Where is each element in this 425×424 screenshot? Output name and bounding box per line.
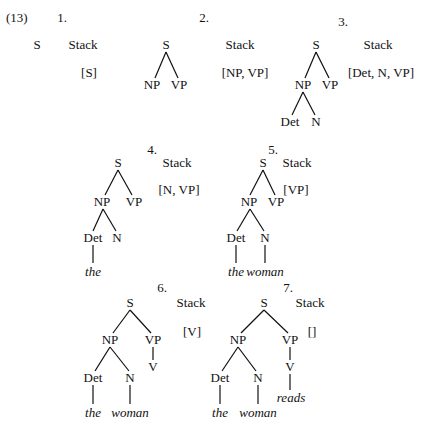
word-reads: reads: [277, 391, 305, 405]
node-S: S: [126, 296, 133, 310]
node-Det: Det: [211, 371, 230, 385]
node-NP: NP: [295, 78, 312, 92]
node-VP: VP: [171, 78, 188, 92]
stack-label: Stack: [163, 156, 192, 170]
node-VP: VP: [282, 333, 299, 347]
step-number: 3.: [338, 15, 348, 29]
word-the: the: [85, 406, 101, 420]
node-NP: NP: [144, 78, 161, 92]
node-S: S: [33, 38, 40, 52]
example-number: (13): [6, 11, 28, 25]
stack-label: Stack: [364, 38, 393, 52]
node-Det: Det: [227, 231, 246, 245]
node-NP: NP: [94, 195, 111, 209]
node-VP: VP: [126, 195, 143, 209]
stack-label: Stack: [283, 156, 312, 170]
stack-contents: [Det, N, VP]: [348, 66, 414, 80]
node-Det: Det: [281, 115, 300, 129]
word-woman: woman: [246, 265, 284, 279]
node-S: S: [312, 38, 319, 52]
node-Det: Det: [84, 371, 103, 385]
step-number: 4.: [147, 143, 157, 157]
step-number: 5.: [268, 143, 278, 157]
node-N: N: [253, 371, 262, 385]
word-the: the: [85, 265, 101, 279]
stack-label: Stack: [177, 296, 206, 310]
node-VP: VP: [145, 333, 162, 347]
node-VP: VP: [322, 78, 339, 92]
step-number: 1.: [57, 11, 67, 25]
stack-contents: [N, VP]: [159, 183, 200, 197]
node-NP: NP: [102, 333, 119, 347]
node-VP: VP: [268, 195, 285, 209]
node-Det: Det: [84, 231, 103, 245]
node-S: S: [260, 296, 267, 310]
stack-contents: [VP]: [283, 183, 308, 197]
tree-edges: [0, 0, 425, 424]
step-number: 7.: [283, 281, 293, 295]
node-S: S: [114, 156, 121, 170]
stack-contents: [V]: [183, 325, 201, 339]
node-NP: NP: [241, 195, 258, 209]
node-S: S: [162, 38, 169, 52]
step-number: 2.: [199, 11, 209, 25]
step-number: 6.: [157, 281, 167, 295]
node-N: N: [125, 371, 134, 385]
stack-label: Stack: [226, 38, 255, 52]
node-V: V: [148, 360, 157, 374]
node-NP: NP: [230, 333, 247, 347]
word-the: the: [212, 406, 228, 420]
stack-contents: []: [308, 325, 317, 339]
stack-label: Stack: [296, 296, 325, 310]
word-the: the: [228, 265, 244, 279]
node-S: S: [259, 156, 266, 170]
stack-contents: [NP, VP]: [222, 66, 269, 80]
node-N: N: [260, 231, 269, 245]
node-V: V: [285, 360, 294, 374]
node-N: N: [311, 115, 320, 129]
word-woman: woman: [111, 406, 149, 420]
word-woman: woman: [239, 406, 277, 420]
stack-label: Stack: [69, 38, 98, 52]
stack-contents: [S]: [81, 66, 97, 80]
node-N: N: [112, 231, 121, 245]
